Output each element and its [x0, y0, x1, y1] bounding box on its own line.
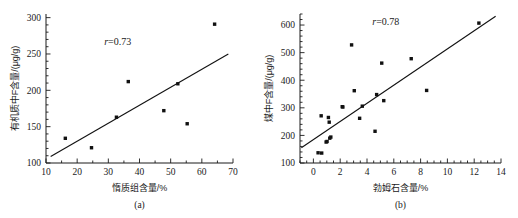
- panel-caption: (b): [395, 200, 406, 211]
- y-axis-tick-label: 200: [281, 131, 296, 141]
- x-axis-tick-label: 2: [338, 167, 343, 177]
- correlation-annotation: r=0.78: [372, 16, 399, 27]
- data-point: [353, 89, 356, 92]
- y-axis-tick-label: 250: [27, 49, 42, 59]
- x-axis-tick-label: 60: [197, 167, 207, 177]
- y-axis-tick-label: 100: [281, 158, 296, 168]
- x-axis-tick-label: 4: [365, 167, 370, 177]
- x-axis-tick-label: 40: [135, 167, 145, 177]
- y-axis-tick-label: 400: [281, 76, 296, 86]
- data-point: [373, 130, 376, 133]
- data-point: [64, 137, 67, 140]
- y-axis-tick-label: 200: [27, 86, 42, 96]
- x-axis-title: 勃姆石含量/%: [373, 182, 429, 193]
- data-point: [327, 116, 330, 119]
- y-axis-title: 煤中F含量/(μg/g): [263, 55, 274, 123]
- y-axis-title: 有机质中F含量/(μg/g): [9, 46, 20, 132]
- data-point: [477, 21, 480, 24]
- data-point: [410, 57, 413, 60]
- data-point: [382, 99, 385, 102]
- data-point: [127, 80, 130, 83]
- data-point: [213, 22, 216, 25]
- scatter-plot-b: 02468101214100200300400500600r=0.78勃姆石含量…: [259, 0, 518, 218]
- x-axis-tick-label: 0: [311, 167, 316, 177]
- x-axis-tick-label: 30: [104, 167, 114, 177]
- x-axis-title: 惰质组含量/%: [112, 182, 168, 193]
- data-point: [329, 135, 332, 138]
- y-axis-tick-label: 150: [27, 122, 42, 132]
- data-point: [425, 89, 428, 92]
- regression-trendline: [51, 54, 229, 156]
- data-point: [185, 122, 188, 125]
- data-point: [341, 105, 344, 108]
- data-point: [361, 104, 364, 107]
- data-point: [162, 109, 165, 112]
- y-axis-tick-label: 300: [281, 103, 296, 113]
- correlation-value: =0.73: [108, 36, 131, 47]
- x-axis-tick-label: 50: [166, 167, 176, 177]
- x-axis-tick-label: 8: [418, 167, 423, 177]
- data-point: [90, 146, 93, 149]
- chart-panel-a: 10203040506070100150200250300r=0.73惰质组含量…: [0, 0, 259, 218]
- x-axis-tick-label: 10: [41, 167, 51, 177]
- panel-caption: (a): [134, 200, 145, 211]
- x-axis-tick-label: 20: [72, 167, 82, 177]
- scatter-plot-a: 10203040506070100150200250300r=0.73惰质组含量…: [0, 0, 259, 218]
- axis-spines: [300, 14, 501, 163]
- correlation-value: =0.78: [376, 16, 399, 27]
- axis-spines: [46, 14, 233, 163]
- x-axis-tick-label: 12: [469, 167, 479, 177]
- y-axis-tick-label: 500: [281, 48, 296, 58]
- data-point: [316, 151, 319, 154]
- data-point: [350, 43, 353, 46]
- data-point: [325, 140, 328, 143]
- y-axis-tick-label: 100: [27, 158, 42, 168]
- figure-container: 10203040506070100150200250300r=0.73惰质组含量…: [0, 0, 518, 218]
- data-point: [320, 151, 323, 154]
- data-point: [380, 61, 383, 64]
- x-axis-tick-label: 10: [443, 167, 453, 177]
- x-axis-tick-label: 14: [496, 167, 506, 177]
- y-axis-tick-label: 600: [281, 20, 296, 30]
- data-point: [375, 93, 378, 96]
- data-point: [328, 120, 331, 123]
- y-axis-tick-label: 300: [27, 13, 42, 23]
- regression-trendline: [301, 16, 495, 148]
- data-point: [176, 82, 179, 85]
- data-point: [115, 116, 118, 119]
- x-axis-tick-label: 70: [228, 167, 238, 177]
- x-axis-tick-label: 6: [391, 167, 396, 177]
- data-point: [358, 117, 361, 120]
- chart-panel-b: 02468101214100200300400500600r=0.78勃姆石含量…: [259, 0, 518, 218]
- correlation-annotation: r=0.73: [104, 36, 131, 47]
- data-point: [319, 114, 322, 117]
